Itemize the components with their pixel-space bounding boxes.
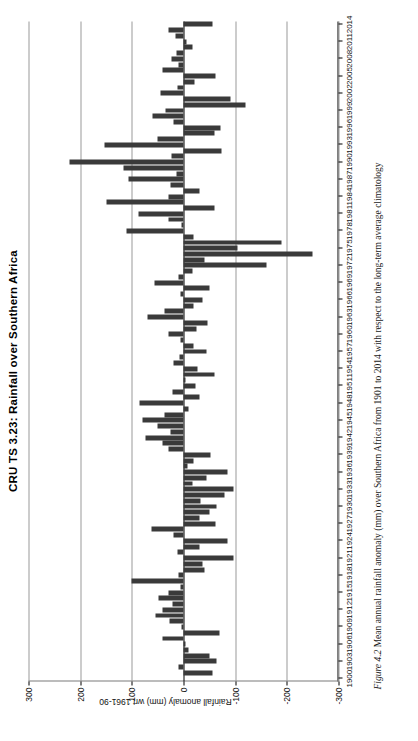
bar-1931	[183, 498, 200, 503]
year-tick-label-1999: 1999	[344, 101, 353, 119]
bar-2003	[177, 85, 183, 90]
year-tick-label-1996: 1996	[344, 118, 353, 136]
bar-1959	[180, 337, 183, 342]
bar-1907	[162, 636, 183, 641]
bar-1909	[181, 624, 183, 629]
bar-2007	[178, 62, 183, 67]
year-tickmark-1978	[338, 229, 342, 230]
year-tick-label-1930: 1930	[344, 497, 353, 515]
value-tickmark-100	[131, 681, 132, 685]
year-tickmark-1924	[338, 539, 342, 540]
caption-label: Figure 4.2	[372, 649, 382, 689]
bar-1962	[183, 320, 207, 325]
year-tickmark-1987	[338, 178, 342, 179]
year-tick-label-1927: 1927	[344, 514, 353, 532]
bar-1997	[173, 119, 183, 124]
bar-1969	[154, 280, 183, 285]
year-tickmark-2002	[338, 92, 342, 93]
year-tickmark-1981	[338, 212, 342, 213]
bar-1928	[183, 515, 199, 520]
year-tickmark-1999	[338, 109, 342, 110]
bar-1979	[181, 222, 183, 227]
value-tick-label-300: 300	[23, 687, 33, 741]
bar-2011	[183, 39, 186, 44]
year-tickmark-1966	[338, 298, 342, 299]
bar-1918	[178, 572, 183, 577]
bar-1937	[183, 463, 187, 468]
bar-1944	[157, 423, 183, 428]
year-tick-label-1942: 1942	[344, 428, 353, 446]
bar-1958	[183, 343, 193, 348]
year-tick-label-1924: 1924	[344, 532, 353, 550]
year-tickmark-1900	[338, 677, 342, 678]
bar-1947	[183, 406, 188, 411]
bar-2005	[183, 73, 215, 78]
year-tick-label-1960: 1960	[344, 325, 353, 343]
bar-1977	[183, 234, 193, 239]
year-tick-label-1954: 1954	[344, 359, 353, 377]
year-tick-label-1933: 1933	[344, 480, 353, 498]
bar-1978	[126, 228, 183, 233]
year-tickmark-2011	[338, 40, 342, 41]
year-tick-label-1948: 1948	[344, 394, 353, 412]
bar-1955	[173, 360, 183, 365]
value-tick-label--200: -200	[281, 687, 291, 741]
year-tickmark-1993	[338, 143, 342, 144]
year-tick-label-1900: 1900	[344, 669, 353, 687]
bar-1956	[179, 354, 183, 359]
bar-1994	[157, 136, 183, 141]
bar-1965	[183, 303, 193, 308]
value-tickmark--300	[338, 681, 339, 685]
year-tickmark-1954	[338, 367, 342, 368]
bar-1926	[151, 526, 183, 531]
year-tickmark-1969	[338, 281, 342, 282]
year-tickmark-1912	[338, 608, 342, 609]
year-tick-label-1906: 1906	[344, 635, 353, 653]
bar-1919	[183, 567, 204, 572]
bar-1942	[145, 435, 183, 440]
bar-1963	[147, 314, 183, 319]
year-tickmark-1930	[338, 505, 342, 506]
bar-1976	[183, 240, 281, 245]
figure-body: CRU TS 3.23: Rainfall over Southern Afri…	[0, 0, 418, 741]
bar-1952	[183, 377, 185, 382]
year-tickmark-1975	[338, 247, 342, 248]
year-tick-label-1915: 1915	[344, 583, 353, 601]
bar-2010	[183, 44, 192, 49]
bar-1990	[69, 159, 183, 164]
bar-1938	[183, 458, 193, 463]
year-tickmark-1945	[338, 419, 342, 420]
bar-2009	[176, 50, 183, 55]
year-tick-label-2011: 2011	[344, 32, 353, 49]
bar-1904	[183, 653, 209, 658]
bar-1975	[183, 245, 237, 250]
bar-1998	[152, 113, 183, 118]
bar-1945	[142, 417, 183, 422]
bar-1970	[178, 274, 183, 279]
year-tickmark-1960	[338, 333, 342, 334]
year-tick-label-1912: 1912	[344, 600, 353, 618]
year-tick-label-1966: 1966	[344, 290, 353, 308]
value-tick-label-200: 200	[75, 687, 85, 741]
bar-1908	[183, 630, 219, 635]
bar-1999	[165, 108, 183, 113]
year-tick-label-1909: 1909	[344, 618, 353, 636]
year-tick-label-1972: 1972	[344, 256, 353, 274]
bar-1930	[183, 504, 216, 509]
bar-1967	[180, 291, 183, 296]
year-tickmark-1906	[338, 643, 342, 644]
bar-1917	[131, 578, 183, 583]
year-tickmark-1951	[338, 384, 342, 385]
bar-1968	[183, 285, 209, 290]
year-tick-label-2014: 2014	[344, 15, 353, 33]
year-tickmark-1909	[338, 625, 342, 626]
year-tick-label-1939: 1939	[344, 445, 353, 463]
bar-1914	[158, 595, 183, 600]
year-tickmark-1990	[338, 161, 342, 162]
bar-1981	[138, 211, 183, 216]
bar-1911	[155, 613, 183, 618]
bar-2006	[162, 67, 183, 72]
bar-1972	[183, 262, 266, 267]
year-tick-label-1978: 1978	[344, 222, 353, 240]
figure-page: CRU TS 3.23: Rainfall over Southern Afri…	[0, 0, 418, 741]
